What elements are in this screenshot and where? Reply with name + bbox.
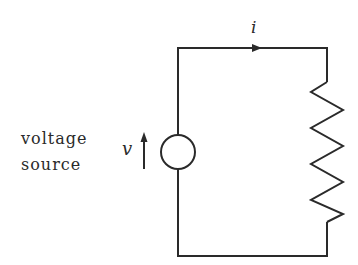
voltage-arrow-icon bbox=[141, 132, 148, 142]
source-label-line1: voltage bbox=[20, 129, 87, 148]
left-wire-top bbox=[178, 48, 327, 135]
voltage-source-icon bbox=[161, 135, 195, 169]
source-label-line2: source bbox=[21, 155, 81, 174]
current-label: i bbox=[251, 17, 256, 37]
circuit-diagram: i v voltage source bbox=[0, 0, 358, 265]
voltage-label: v bbox=[122, 138, 132, 159]
left-wire-bottom bbox=[178, 169, 327, 256]
resistor-icon bbox=[311, 82, 343, 222]
current-arrow-icon bbox=[252, 44, 262, 52]
